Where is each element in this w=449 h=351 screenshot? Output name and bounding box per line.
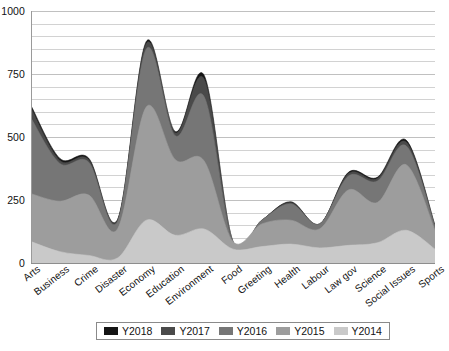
legend-label: Y2017 xyxy=(179,326,209,336)
x-axis-tick-label: Health xyxy=(272,264,301,290)
legend-swatch-icon xyxy=(276,327,290,335)
legend-swatch-icon xyxy=(219,327,233,335)
y-axis-tick-label: 750 xyxy=(7,69,25,79)
legend-label: Y2014 xyxy=(352,326,382,336)
y-axis-line xyxy=(31,11,32,264)
legend-item-y2016[interactable]: Y2016 xyxy=(219,326,267,336)
y-axis-tick-label: 500 xyxy=(7,132,25,142)
legend-item-y2015[interactable]: Y2015 xyxy=(276,326,324,336)
legend-swatch-icon xyxy=(161,327,175,335)
x-axis-tick-label: Sports xyxy=(417,264,446,290)
stacked-area-chart: 02505007501000 ArtsBusinessCrimeDisaster… xyxy=(0,0,449,351)
y-axis-tick-label: 1000 xyxy=(1,6,25,16)
legend-label: Y2015 xyxy=(294,326,324,336)
legend-label: Y2018 xyxy=(122,326,152,336)
legend-item-y2014[interactable]: Y2014 xyxy=(334,326,382,336)
x-axis-tick-text: Health xyxy=(272,264,301,290)
chart-legend: Y2018Y2017Y2016Y2015Y2014 xyxy=(96,322,390,340)
legend-swatch-icon xyxy=(334,327,348,335)
y-axis-tick-label: 0 xyxy=(19,258,25,268)
y-axis-labels: 02505007501000 xyxy=(0,0,28,275)
legend-swatch-icon xyxy=(104,327,118,335)
area-series-group xyxy=(31,11,435,263)
x-axis-tick-text: Sports xyxy=(417,264,446,290)
legend-item-y2018[interactable]: Y2018 xyxy=(104,326,152,336)
y-axis-tick-label: 250 xyxy=(7,195,25,205)
legend-item-y2017[interactable]: Y2017 xyxy=(161,326,209,336)
plot-area xyxy=(31,11,435,263)
x-axis-labels: ArtsBusinessCrimeDisasterEconomyEducatio… xyxy=(31,264,435,312)
legend-label: Y2016 xyxy=(237,326,267,336)
